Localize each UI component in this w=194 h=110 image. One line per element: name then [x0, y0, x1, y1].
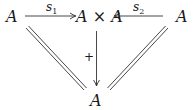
equality-right	[108, 26, 169, 90]
node-left: A	[6, 9, 18, 25]
node-center: A × A	[76, 9, 123, 25]
label-plus: +	[84, 51, 94, 63]
equality-left	[26, 26, 87, 90]
commutative-diagram: A A × A A A s1 s2 +	[0, 0, 194, 110]
label-s2: s2	[133, 1, 144, 18]
label-s1-sub: 1	[52, 7, 57, 16]
arrow-plus	[94, 31, 100, 86]
node-right: A	[176, 9, 188, 25]
label-s2-sub: 2	[139, 7, 144, 16]
label-s1: s1	[46, 1, 57, 18]
node-bottom: A	[90, 93, 102, 109]
